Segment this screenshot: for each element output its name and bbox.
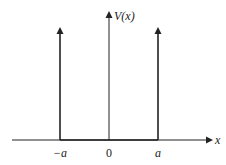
tick-label-neg-a: −a xyxy=(53,146,67,160)
y-axis-label: V(x) xyxy=(114,9,135,23)
x-axis-label: x xyxy=(214,133,221,147)
tick-label-a: a xyxy=(155,146,161,160)
y-axis-arrow-icon xyxy=(106,11,113,18)
left-spike-arrow-icon xyxy=(57,27,64,34)
potential-diagram: V(x) x −a 0 a xyxy=(0,0,226,165)
tick-label-zero: 0 xyxy=(106,146,112,160)
x-axis-arrow-icon xyxy=(206,137,213,144)
right-spike-arrow-icon xyxy=(155,27,162,34)
